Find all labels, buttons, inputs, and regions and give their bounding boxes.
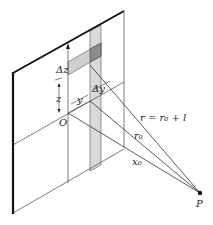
ray-x0 — [68, 113, 200, 193]
diagram-canvas: Δz z y Δy O r = r₀ + l r₀ x₀ P — [0, 0, 213, 225]
label-origin: O — [59, 117, 67, 128]
ray-r — [90, 65, 200, 193]
label-r0: r₀ — [134, 130, 143, 141]
wall-bottom-edge — [13, 149, 124, 213]
point-p-marker — [198, 191, 202, 195]
label-x0: x₀ — [132, 156, 142, 167]
label-delta-y: Δy — [91, 83, 105, 94]
z-arrow-bottom-icon — [58, 109, 61, 113]
z-tick — [55, 78, 62, 80]
z-arrow-top-icon — [58, 83, 61, 87]
label-z: z — [55, 93, 62, 104]
label-r: r = r₀ + l — [140, 112, 186, 123]
label-y: y — [76, 94, 83, 105]
label-point-p: P — [195, 198, 203, 209]
label-delta-z: Δz — [55, 64, 69, 75]
